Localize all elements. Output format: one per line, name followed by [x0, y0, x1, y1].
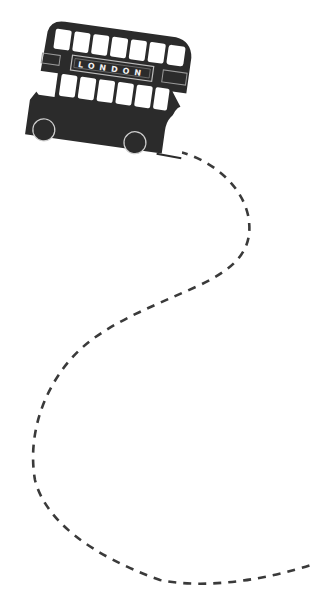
- illustration-canvas: LONDON: [0, 0, 311, 610]
- dashed-route-path: [33, 152, 311, 584]
- london-bus: LONDON: [24, 18, 197, 160]
